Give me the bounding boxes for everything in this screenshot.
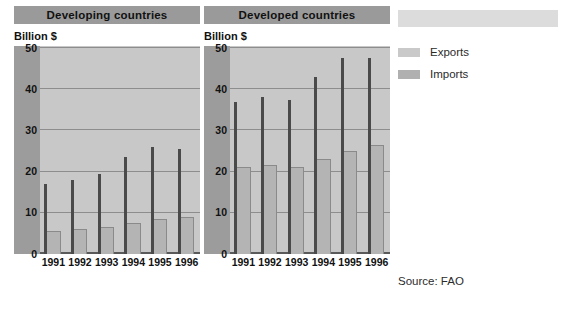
y-tick-label: 10 [215,208,227,219]
bar-group [40,46,67,254]
bar-imports [124,157,127,254]
bar-imports [178,149,181,254]
bar-group [93,46,120,254]
bar-imports [44,184,47,254]
x-tick-label: 1995 [148,256,171,268]
plot-area-developing: 01020304050 [14,46,200,254]
chart-panel-developing: Developing countries Billion $ 010203040… [14,6,200,272]
bar-group [147,46,174,254]
panel-title-developing: Developing countries [14,6,200,24]
plot-canvas-developing [40,46,200,254]
y-tick-label: 20 [215,166,227,177]
y-tick-label: 30 [25,125,37,136]
x-tick-label: 1993 [285,256,308,268]
y-axis-unit-developing: Billion $ [14,30,200,42]
bar-imports [151,147,154,254]
y-axis-band-developed: 01020304050 [204,46,230,254]
bar-group [363,46,390,254]
x-tick-label: 1996 [365,256,388,268]
legend-swatch-exports-icon [398,48,420,57]
y-tick-label: 10 [25,208,37,219]
x-tick-label: 1994 [312,256,335,268]
bar-group [230,46,257,254]
x-tick-label: 1991 [232,256,255,268]
chart-legend: Exports Imports [398,10,558,87]
bar-imports [98,174,101,254]
plot-canvas-developed [230,46,390,254]
bar-group [257,46,284,254]
legend-label-exports: Exports [430,46,469,58]
plot-area-developed: 01020304050 [204,46,390,254]
x-tick-label: 1992 [68,256,91,268]
legend-banner [398,10,558,27]
bar-imports [234,102,237,254]
y-tick-label: 40 [25,84,37,95]
legend-label-imports: Imports [430,68,468,80]
bar-imports [314,77,317,254]
y-axis-unit-developed: Billion $ [204,30,390,42]
source-note: Source: FAO [398,275,464,287]
legend-item-exports: Exports [398,43,558,61]
y-tick-label: 30 [215,125,227,136]
legend-swatch-imports-icon [398,70,420,79]
x-tick-label: 1991 [42,256,65,268]
panel-title-developed: Developed countries [204,6,390,24]
bar-imports [341,58,344,254]
bar-group [120,46,147,254]
bar-imports [288,100,291,255]
x-axis-labels-developing: 199119921993199419951996 [14,256,200,272]
bar-imports [261,97,264,254]
y-tick-label: 50 [215,43,227,54]
legend-item-imports: Imports [398,65,558,83]
x-axis-labels-developed: 199119921993199419951996 [204,256,390,272]
x-tick-label: 1992 [258,256,281,268]
y-axis-band-developing: 01020304050 [14,46,40,254]
x-tick-label: 1994 [122,256,145,268]
y-tick-label: 50 [25,43,37,54]
bar-group [310,46,337,254]
x-tick-label: 1996 [175,256,198,268]
legend-items: Exports Imports [398,43,558,83]
bar-imports [368,58,371,254]
bar-group [337,46,364,254]
bar-group [173,46,200,254]
bar-group [283,46,310,254]
chart-panel-developed: Developed countries Billion $ 0102030405… [204,6,390,272]
x-tick-label: 1995 [338,256,361,268]
bar-group [67,46,94,254]
y-tick-label: 40 [215,84,227,95]
y-tick-label: 20 [25,166,37,177]
x-tick-label: 1993 [95,256,118,268]
bar-imports [71,180,74,254]
